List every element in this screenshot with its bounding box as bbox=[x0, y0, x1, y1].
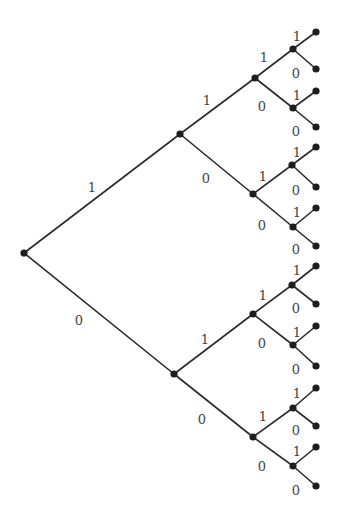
tree-node-101 bbox=[288, 161, 295, 168]
tree-node-11 bbox=[251, 74, 258, 81]
tree-node-0000 bbox=[312, 482, 319, 489]
edge-label: 1 bbox=[293, 444, 301, 459]
tree-node-0101 bbox=[312, 322, 319, 329]
tree-node-1010 bbox=[312, 183, 319, 190]
tree-edge-1-11 bbox=[180, 78, 255, 134]
tree-edges bbox=[24, 32, 316, 486]
tree-node-0001 bbox=[312, 443, 319, 450]
tree-node-1101 bbox=[312, 87, 319, 94]
edge-label: 1 bbox=[293, 386, 301, 401]
tree-node-00 bbox=[249, 433, 256, 440]
edge-label: 1 bbox=[201, 332, 209, 347]
tree-edge-0-01 bbox=[174, 314, 253, 374]
tree-node-110 bbox=[289, 104, 296, 111]
tree-node-0100 bbox=[312, 362, 319, 369]
edge-label: 0 bbox=[292, 242, 300, 257]
tree-node-1001 bbox=[312, 204, 319, 211]
edge-label: 1 bbox=[259, 409, 267, 424]
edge-label: 0 bbox=[292, 183, 300, 198]
tree-node-1000 bbox=[312, 242, 319, 249]
tree-node-0011 bbox=[312, 384, 319, 391]
edge-label: 0 bbox=[258, 218, 266, 233]
edge-label: 1 bbox=[203, 93, 211, 108]
edge-label: 0 bbox=[292, 362, 300, 377]
tree-edge-0-00 bbox=[174, 374, 253, 437]
tree-node-0 bbox=[170, 370, 177, 377]
tree-node-1100 bbox=[312, 123, 319, 130]
edge-label: 0 bbox=[202, 171, 210, 186]
edge-label: 1 bbox=[293, 145, 301, 160]
root-node bbox=[20, 249, 27, 256]
edge-label: 1 bbox=[259, 288, 267, 303]
edge-label: 1 bbox=[293, 88, 301, 103]
tree-node-011 bbox=[288, 281, 295, 288]
tree-node-1110 bbox=[312, 65, 319, 72]
tree-edge-r-1 bbox=[24, 134, 180, 253]
edge-label: 0 bbox=[292, 483, 300, 498]
edge-label: 0 bbox=[258, 336, 266, 351]
tree-node-01 bbox=[249, 310, 256, 317]
tree-node-0110 bbox=[312, 300, 319, 307]
tree-edge-r-0 bbox=[24, 253, 174, 374]
edge-label: 0 bbox=[198, 412, 206, 427]
tree-edge-1-10 bbox=[180, 134, 253, 194]
edge-label: 0 bbox=[75, 313, 83, 328]
edge-label: 0 bbox=[292, 124, 300, 139]
edge-label: 0 bbox=[292, 301, 300, 316]
edge-label: 1 bbox=[293, 29, 301, 44]
tree-node-0010 bbox=[312, 422, 319, 429]
edge-label: 1 bbox=[260, 50, 268, 65]
edge-label: 0 bbox=[292, 423, 300, 438]
edge-label: 0 bbox=[258, 459, 266, 474]
edge-label: 1 bbox=[293, 205, 301, 220]
tree-node-1 bbox=[176, 130, 183, 137]
edge-label: 0 bbox=[292, 66, 300, 81]
tree-node-111 bbox=[289, 45, 296, 52]
tree-node-001 bbox=[289, 404, 296, 411]
tree-node-0111 bbox=[312, 262, 319, 269]
edge-label: 0 bbox=[258, 99, 266, 114]
edge-label: 1 bbox=[293, 263, 301, 278]
tree-node-000 bbox=[289, 462, 296, 469]
tree-node-100 bbox=[289, 223, 296, 230]
binary-tree-diagram: 101010101010101010101010101010 bbox=[0, 0, 347, 519]
tree-node-10 bbox=[249, 190, 256, 197]
edge-label: 1 bbox=[88, 180, 96, 195]
edge-label: 1 bbox=[259, 169, 267, 184]
edge-label: 1 bbox=[293, 325, 301, 340]
tree-node-1011 bbox=[312, 143, 319, 150]
tree-node-1111 bbox=[312, 28, 319, 35]
tree-node-010 bbox=[289, 341, 296, 348]
